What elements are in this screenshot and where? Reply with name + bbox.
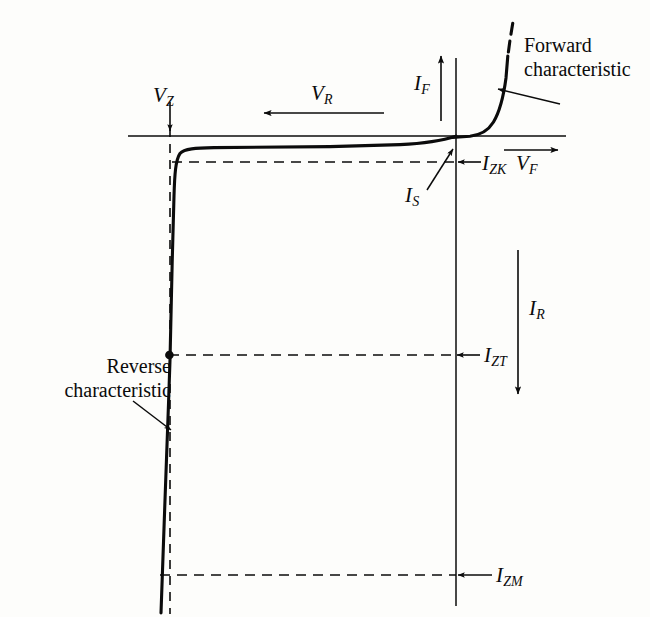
label-vr: VR	[311, 82, 333, 108]
label-vz-sub: Z	[166, 94, 174, 109]
label-reverse-characteristic: Reverse characteristic	[28, 355, 171, 402]
label-vr-sub: R	[324, 92, 333, 107]
label-vf-base: V	[516, 151, 529, 175]
label-izk-sub: ZK	[489, 162, 506, 177]
forward-characteristic-extension	[508, 23, 512, 52]
label-izm: IZM	[496, 564, 523, 590]
reverse-characteristic-line1: Reverse	[28, 355, 171, 379]
label-vr-base: V	[311, 81, 324, 105]
zener-characteristic-figure: VZ VR IF Forward characteristic IZK VF I…	[0, 0, 650, 617]
label-izt: IZT	[484, 344, 507, 370]
reverse-characteristic-line2: characteristic	[28, 379, 171, 403]
label-ir-sub: R	[536, 307, 545, 322]
label-is-sub: S	[412, 194, 419, 209]
label-if: IF	[414, 72, 430, 98]
label-vz: VZ	[153, 84, 174, 110]
label-forward-characteristic: Forward characteristic	[524, 34, 631, 81]
forward-characteristic-line1: Forward	[524, 34, 631, 58]
forward-characteristic-curve	[452, 56, 508, 138]
label-izt-sub: ZT	[491, 354, 507, 369]
label-if-sub: F	[421, 82, 430, 97]
label-vf-sub: F	[529, 162, 538, 177]
forward-characteristic-leader-line	[498, 89, 560, 104]
label-vf: VF	[516, 152, 538, 178]
label-ir: IR	[529, 297, 545, 323]
label-izk: IZK	[482, 152, 506, 178]
label-vz-base: V	[153, 83, 166, 107]
forward-characteristic-line2: characteristic	[524, 58, 631, 82]
reverse-characteristic-leader-line	[133, 401, 171, 430]
label-izm-sub: ZM	[503, 574, 522, 589]
label-is: IS	[405, 184, 419, 210]
is-leader-line	[427, 149, 453, 190]
